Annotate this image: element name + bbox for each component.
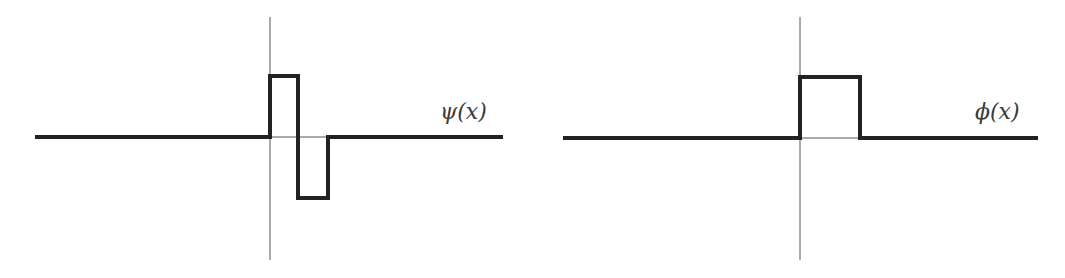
phi-curve: [563, 77, 1038, 138]
haar-figure: [0, 0, 1065, 278]
phi-plot: [563, 17, 1038, 260]
psi-label: ψ(x): [440, 101, 487, 123]
psi-curve: [35, 76, 503, 198]
psi-plot: [35, 17, 503, 260]
phi-label: ϕ(x): [975, 101, 1020, 123]
